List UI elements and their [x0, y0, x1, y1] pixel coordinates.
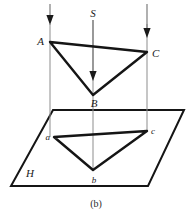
label-C: C: [152, 47, 160, 59]
label-A: A: [36, 35, 44, 47]
label-S: S: [90, 7, 96, 19]
plane-h-parallelogram: [11, 110, 184, 186]
label-B: B: [91, 97, 98, 109]
arrow-left-head: [46, 15, 53, 25]
label-a: a: [46, 132, 51, 142]
label-c: c: [151, 126, 155, 136]
arrow-middle-head: [89, 71, 96, 81]
arrow-right: [143, 4, 150, 38]
triangle-abc-lower-projection: [54, 131, 147, 170]
label-H: H: [25, 167, 35, 179]
triangle-abc-upper: [50, 42, 147, 95]
arrow-middle: [89, 20, 96, 81]
projection-diagram-figure: S A C B a c b H (b): [0, 0, 193, 215]
figure-caption: (b): [90, 198, 102, 210]
arrow-right-head: [143, 28, 150, 38]
label-b: b: [92, 175, 97, 185]
diagram-canvas: S A C B a c b H (b): [0, 0, 193, 215]
arrow-left: [46, 4, 53, 25]
